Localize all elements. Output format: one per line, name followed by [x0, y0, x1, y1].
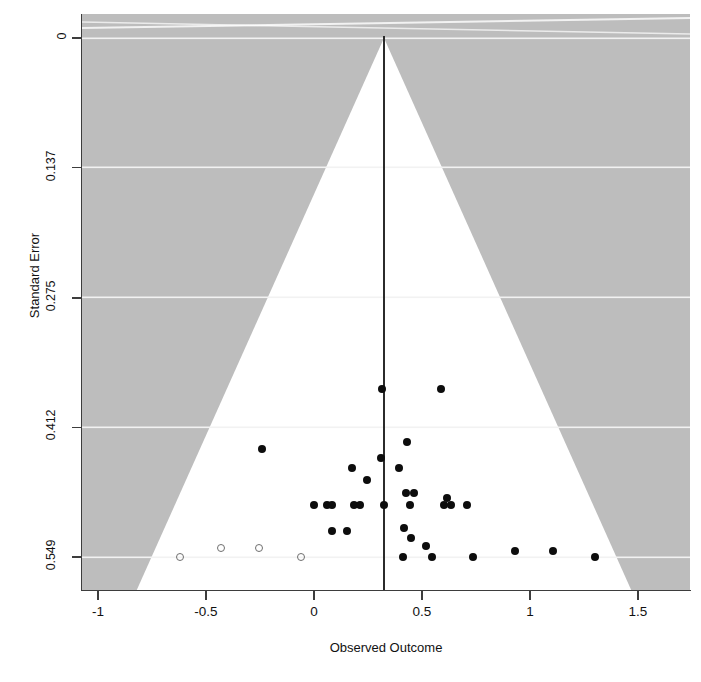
x-axis-title: Observed Outcome [82, 640, 690, 655]
y-axis-title: Standard Error [27, 196, 42, 356]
y-axis-tick [72, 297, 81, 298]
y-axis-tick [72, 427, 81, 428]
observed-data-point [399, 553, 407, 561]
observed-data-point [437, 385, 445, 393]
observed-data-point [343, 527, 351, 535]
x-axis-tick [97, 591, 98, 600]
x-axis-tick [421, 591, 422, 600]
observed-data-point [310, 501, 318, 509]
observed-data-point [348, 464, 356, 472]
data-points-layer [82, 14, 690, 590]
funnel-plot-figure: 00.1370.2750.4120.549 -1-0.500.511.5 Sta… [0, 0, 701, 682]
observed-data-point [511, 547, 519, 555]
y-axis-line [81, 14, 82, 591]
observed-data-point [463, 501, 471, 509]
observed-data-point [377, 454, 385, 462]
x-axis-tick [205, 591, 206, 600]
observed-data-point [258, 445, 266, 453]
observed-data-point [356, 501, 364, 509]
plot-area [82, 14, 690, 590]
x-axis-line [82, 590, 691, 591]
observed-data-point [328, 501, 336, 509]
x-axis-tick-label: 0.5 [382, 604, 462, 619]
x-axis-tick-label: 1 [490, 604, 570, 619]
observed-data-point [422, 542, 430, 550]
imputed-data-point [255, 544, 263, 552]
observed-data-point [591, 553, 599, 561]
y-axis-tick-label: 0.549 [0, 548, 66, 562]
observed-data-point [378, 385, 386, 393]
observed-data-point [410, 489, 418, 497]
observed-data-point [402, 489, 410, 497]
x-axis-tick-label: 0 [274, 604, 354, 619]
imputed-data-point [217, 544, 225, 552]
observed-data-point [403, 438, 411, 446]
y-axis-tick [72, 167, 81, 168]
observed-data-point [469, 553, 477, 561]
y-axis-tick-label: 0 [0, 29, 66, 43]
y-axis-tick [72, 556, 81, 557]
observed-data-point [328, 527, 336, 535]
observed-data-point [549, 547, 557, 555]
observed-data-point [400, 524, 408, 532]
observed-data-point [380, 501, 388, 509]
observed-data-point [406, 501, 414, 509]
y-axis-tick-label: 0.137 [0, 159, 66, 173]
x-axis-tick-label: -0.5 [166, 604, 246, 619]
x-axis-tick [637, 591, 638, 600]
y-axis-tick [72, 37, 81, 38]
imputed-data-point [297, 553, 305, 561]
observed-data-point [428, 553, 436, 561]
observed-data-point [395, 464, 403, 472]
x-axis-tick-label: 1.5 [598, 604, 678, 619]
x-axis-tick-label: -1 [58, 604, 138, 619]
observed-data-point [447, 501, 455, 509]
x-axis-tick [529, 591, 530, 600]
x-axis-tick [313, 591, 314, 600]
observed-data-point [407, 534, 415, 542]
observed-data-point [363, 476, 371, 484]
y-axis-tick-label: 0.412 [0, 418, 66, 432]
imputed-data-point [176, 553, 184, 561]
